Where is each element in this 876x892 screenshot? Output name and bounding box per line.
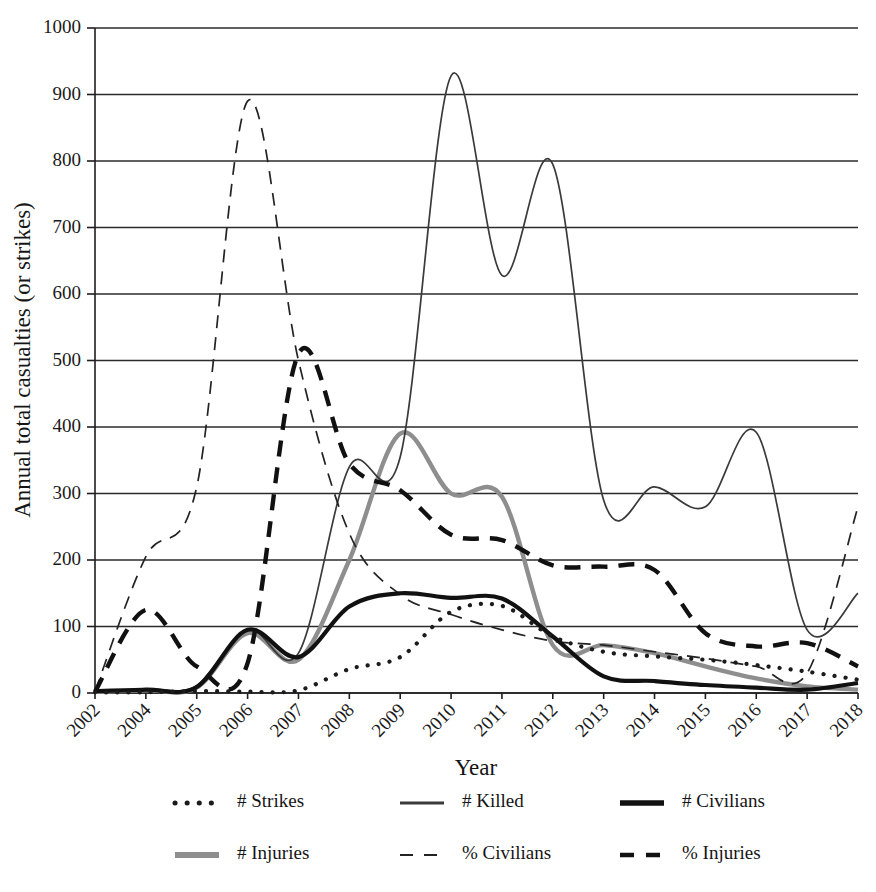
chart-figure: 01002003004005006007008009001000 2002200…: [0, 0, 876, 892]
y-tick-label: 800: [53, 149, 82, 170]
legend-entry-label: # Killed: [462, 790, 524, 811]
x-tick-label: 2017: [774, 699, 816, 741]
line-chart-canvas: 01002003004005006007008009001000 2002200…: [0, 0, 876, 892]
x-tick-label: 2010: [418, 699, 460, 741]
legend-entry-label: # Strikes: [237, 790, 304, 811]
series-line-civilians: [95, 100, 858, 692]
gridline-group: [95, 28, 858, 693]
series-line-injuries: [95, 348, 858, 692]
y-tick-label: 300: [53, 482, 82, 503]
y-tick-label: 100: [53, 615, 82, 636]
legend-entry-label: # Injuries: [237, 842, 309, 863]
y-tick-label: 0: [72, 681, 82, 702]
y-tick-label: 1000: [43, 16, 81, 37]
legend-entry-label: # Civilians: [682, 790, 765, 811]
y-tick-label: 700: [53, 216, 82, 237]
x-tick-label: 2002: [62, 699, 104, 741]
y-tick-label: 600: [53, 282, 82, 303]
y-tick-label-group: 01002003004005006007008009001000: [43, 16, 81, 702]
x-axis-title: Year: [455, 755, 498, 780]
x-tick-label: 2013: [571, 699, 613, 741]
x-tick-label: 2006: [215, 699, 257, 741]
legend-entry-label: % Civilians: [462, 842, 551, 863]
series-line-killed: [95, 73, 858, 691]
x-tick-label: 2016: [723, 699, 765, 741]
x-tick-label: 2008: [316, 699, 358, 741]
x-tick-label: 2009: [367, 699, 409, 741]
x-tick-label: 2012: [520, 699, 562, 741]
x-tick-label: 2015: [673, 699, 715, 741]
x-tick-label: 2018: [825, 699, 867, 741]
chart-legend: # Strikes# Killed# Civilians# Injuries% …: [175, 790, 765, 863]
x-tick-label: 2004: [113, 699, 155, 741]
x-tick-label: 2011: [470, 699, 511, 740]
x-tick-label-group: 2002200420052006200720082009201020112012…: [62, 693, 867, 741]
y-tick-label: 500: [53, 349, 82, 370]
y-tick-label: 200: [53, 548, 82, 569]
x-tick-label: 2014: [622, 699, 664, 741]
series-line-injuries: [95, 432, 858, 692]
legend-entry-label: % Injuries: [682, 842, 761, 863]
series-group: [95, 73, 858, 693]
x-tick-label: 2007: [266, 699, 308, 741]
y-axis-title: Annual total casualties (or strikes): [10, 202, 35, 518]
x-tick-label: 2005: [164, 699, 206, 741]
y-tick-label: 400: [53, 415, 82, 436]
y-tick-label: 900: [53, 83, 82, 104]
y-tick-group: [87, 28, 95, 693]
